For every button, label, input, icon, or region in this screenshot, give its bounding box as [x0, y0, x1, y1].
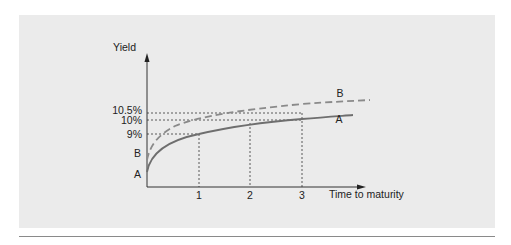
intercept-label-b: B: [134, 147, 141, 159]
x-tick-2: 2: [247, 189, 253, 201]
curve-b: [147, 100, 370, 160]
reference-lines: [147, 113, 302, 187]
x-tick-1: 1: [196, 189, 202, 201]
curve-label-b: B: [336, 87, 343, 99]
y-tick-9: 9%: [127, 128, 142, 140]
y-axis-arrow-icon: [145, 53, 150, 62]
x-tick-3: 3: [299, 189, 305, 201]
y-tick-10: 10%: [121, 114, 142, 126]
yield-curve-chart: Yield 10.5% 10% 9% B A 1 2 3 Time to mat…: [0, 0, 511, 245]
curve-label-a: A: [335, 113, 342, 125]
y-axis-label: Yield: [113, 41, 136, 53]
intercept-label-a: A: [134, 168, 141, 180]
x-axis-label: Time to maturity: [329, 188, 405, 200]
